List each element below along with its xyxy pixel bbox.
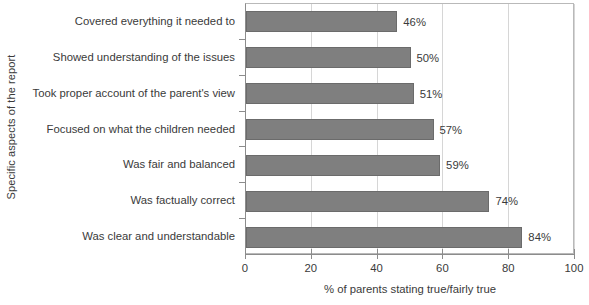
bar-value-label: 50% [417, 52, 440, 64]
x-axis-tick-label: 80 [502, 262, 515, 275]
x-axis-tick-label: 100 [565, 262, 584, 275]
gridline [574, 4, 575, 253]
bar [246, 119, 434, 140]
x-axis-tick-label: 20 [305, 262, 318, 275]
category-label: Was factually correct [131, 194, 235, 206]
bar [246, 227, 522, 248]
x-axis-tick [442, 249, 443, 259]
plot-area: 46%50%51%57%59%74%84% [245, 3, 574, 254]
gridline [508, 4, 509, 253]
y-axis-title: Specific aspects of the report [0, 0, 22, 254]
x-axis-line [245, 254, 575, 255]
bar [246, 191, 489, 212]
y-axis-tick [239, 75, 245, 76]
category-label: Was clear and understandable [82, 230, 235, 242]
bar-value-label: 46% [403, 16, 426, 28]
bar-value-label: 59% [446, 159, 469, 171]
x-axis-tick [574, 249, 575, 259]
bar [246, 155, 440, 176]
bar [246, 11, 397, 32]
category-label: Was fair and balanced [123, 158, 235, 170]
x-axis-tick [377, 249, 378, 259]
bar-chart-figure: Specific aspects of the report Covered e… [0, 0, 589, 305]
y-axis-tick [239, 146, 245, 147]
y-axis-tick-labels: Covered everything it needed toShowed un… [24, 3, 241, 254]
category-label: Focused on what the children needed [47, 123, 235, 135]
bar-value-label: 51% [420, 88, 443, 100]
x-axis-tick-label: 0 [242, 262, 248, 275]
bar-value-label: 74% [495, 195, 518, 207]
y-axis-tick [239, 111, 245, 112]
y-axis-tick [239, 182, 245, 183]
x-axis-title: % of parents stating true/fairly true [245, 283, 575, 295]
x-axis-tick-label: 60 [436, 262, 449, 275]
x-axis-tick-label: 40 [370, 262, 383, 275]
y-axis-tick [239, 39, 245, 40]
category-label: Took proper account of the parent's view [33, 87, 235, 99]
x-axis-tick [245, 249, 246, 259]
bar [246, 47, 411, 68]
x-axis-tick [311, 249, 312, 259]
y-axis-title-text: Specific aspects of the report [5, 55, 17, 200]
bar [246, 83, 414, 104]
bar-value-label: 84% [528, 231, 551, 243]
x-axis-tick [508, 249, 509, 259]
category-label: Showed understanding of the issues [53, 51, 235, 63]
bar-value-label: 57% [440, 124, 463, 136]
category-label: Covered everything it needed to [75, 15, 235, 27]
y-axis-tick [239, 218, 245, 219]
